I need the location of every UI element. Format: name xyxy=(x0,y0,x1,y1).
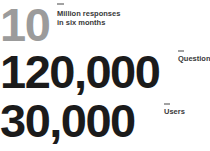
stat-value-questions: 120,000 xyxy=(0,48,159,95)
stat-label-responses: Million responses in six months xyxy=(57,10,120,27)
stat-label-users: Users xyxy=(164,108,185,117)
label-tick-responses xyxy=(57,3,64,5)
stat-value-users: 30,000 xyxy=(0,97,135,144)
label-tick-questions xyxy=(178,50,184,52)
stat-label-responses-line2: in six months xyxy=(57,18,105,27)
stats-panel: 10 Million responses in six months 120,0… xyxy=(0,0,210,151)
stat-label-questions: Questions xyxy=(178,55,210,64)
label-tick-users xyxy=(164,103,170,105)
stat-value-responses: 10 xyxy=(0,1,49,48)
